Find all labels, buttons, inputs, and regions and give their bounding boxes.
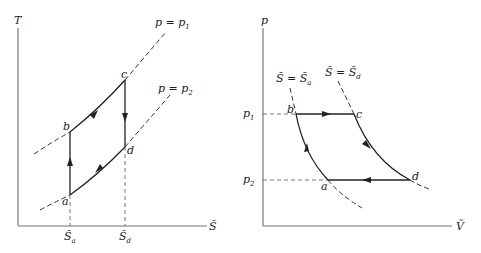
point-a-label: a [321,180,328,193]
arrow-left-icon [362,177,371,183]
arrow-down-icon [122,113,128,122]
v-axis-label: Ṽ [456,219,465,233]
tick-sd-label: S̃d [119,230,132,245]
process-a-to-b [296,114,328,180]
isobar-p1-lower [34,132,70,154]
adiabat-sd-label: S̃ = S̃d [325,66,361,81]
point-a-label: a [62,195,69,208]
point-b-label: b [287,103,294,116]
arrow-up-icon [67,157,73,166]
isobar-p2-upper [125,95,170,147]
thermodynamic-cycle-diagram: T S̃ p = p1 p = p2 b c d a S̃a S̃d [0,0,481,253]
tick-p1-label: p1 [243,107,255,122]
p-axis-label: p [261,14,268,27]
process-b-to-c [70,80,125,132]
tick-p2-label: p2 [243,173,255,188]
isobar-p2-label: p = p2 [158,82,193,97]
point-d-label: d [412,170,419,183]
point-d-label: d [127,144,134,157]
adiabat-a-lower [328,180,362,208]
s-axis-label: S̃ [209,220,217,233]
tick-sa-label: S̃a [64,230,76,245]
ts-diagram: T S̃ p = p1 p = p2 b c d a S̃a S̃d [14,14,217,245]
t-axis-label: T [14,14,23,27]
isobar-p1-label: p = p1 [155,16,190,31]
point-c-label: c [121,68,127,81]
adiabat-sa-label: S̃ = S̃a [276,72,311,87]
arrow-right-icon [322,111,331,117]
point-c-label: c [356,108,362,121]
adiabat-d-upper [338,81,354,114]
pv-diagram: p Ṽ S̃ = S̃a S̃ = S̃d p1 p2 b c d a [243,14,465,233]
point-b-label: b [63,120,70,133]
isobar-p1-upper [125,32,166,80]
process-c-to-d [354,114,410,180]
